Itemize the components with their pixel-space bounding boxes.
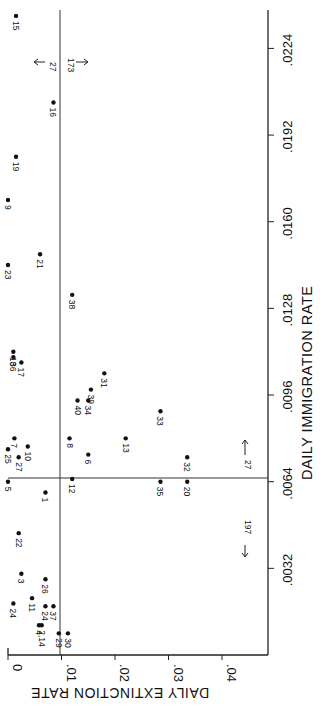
data-point: 7 <box>9 436 19 448</box>
point-marker <box>17 455 21 459</box>
off-scale-label: 27 <box>243 460 253 470</box>
point-label: 40 <box>73 405 83 415</box>
point-label: 8 <box>65 443 75 448</box>
point-label: 3 <box>16 579 26 584</box>
point-label: 27 <box>14 462 24 472</box>
data-point: 19 <box>11 155 21 172</box>
axes <box>8 10 268 655</box>
data-point: 33 <box>155 409 165 426</box>
off-scale-label: 27 <box>48 62 58 72</box>
point-label: 1 <box>40 498 50 503</box>
point-label: 9 <box>3 205 13 210</box>
point-marker <box>11 355 15 359</box>
point-label: 23 <box>3 270 13 280</box>
point-marker <box>11 350 15 354</box>
extinction-axis-label: DAILY EXTINCTION RATE <box>31 685 210 701</box>
data-point: 22 <box>14 531 24 548</box>
point-label: 35 <box>155 487 165 497</box>
data-point: 5 <box>3 479 13 491</box>
extinction-tick-label: .03 <box>171 664 186 682</box>
point-label: 30 <box>63 638 73 648</box>
point-marker <box>185 455 189 459</box>
point-label: 13 <box>121 443 131 453</box>
point-label: 16 <box>48 108 58 118</box>
data-point: 12 <box>67 477 77 494</box>
point-marker <box>6 263 10 267</box>
extinction-ticks: 0.01.02.03.04 <box>8 655 239 682</box>
data-point: 40 <box>73 398 83 415</box>
data-point: 9 <box>3 198 13 210</box>
point-marker <box>185 479 189 483</box>
point-label: 22 <box>14 538 24 548</box>
point-label: 34 <box>83 405 93 415</box>
data-point: 24 <box>8 601 18 618</box>
point-marker <box>102 371 106 375</box>
extinction-tick-label: 0 <box>10 664 25 671</box>
point-label: 7 <box>9 443 19 448</box>
point-marker <box>43 490 47 494</box>
point-label: 38 <box>67 300 77 310</box>
point-label: 5 <box>3 487 13 492</box>
point-marker <box>158 409 162 413</box>
point-marker <box>158 479 162 483</box>
data-point: 31 <box>99 371 109 388</box>
immigration-tick-label: .0032 <box>280 554 295 587</box>
data-point: 27 <box>14 455 24 472</box>
point-marker <box>19 572 23 576</box>
immigration-tick-label: .0128 <box>280 294 295 327</box>
chart-canvas: .0032.0064.0096.0128.0160.0192.0224 0.01… <box>0 0 320 707</box>
off-scale-label: 173 <box>66 58 76 72</box>
point-marker <box>43 577 47 581</box>
point-label: 19 <box>11 162 21 172</box>
data-point: 11 <box>27 596 37 612</box>
extinction-tick-label: .02 <box>117 664 132 682</box>
point-label: 11 <box>27 603 37 612</box>
point-label: 2,14 <box>37 630 47 647</box>
point-marker <box>12 436 16 440</box>
point-marker <box>14 14 18 18</box>
point-label: 15 <box>11 21 21 31</box>
immigration-tick-label: .0096 <box>280 380 295 413</box>
point-marker <box>75 398 79 402</box>
extinction-tick-label: .04 <box>224 664 239 682</box>
point-marker <box>38 252 42 256</box>
point-marker <box>11 601 15 605</box>
point-marker <box>66 631 70 635</box>
point-label: 31 <box>99 378 109 388</box>
data-point: 37 <box>48 604 58 621</box>
data-point: 29 <box>54 631 64 648</box>
point-label: 37 <box>48 611 58 621</box>
data-point: 10 <box>23 444 33 461</box>
immigration-ticks: .0032.0064.0096.0128.0160.0192.0224 <box>268 34 295 586</box>
point-label: 10 <box>23 451 33 461</box>
data-point: 23 <box>3 263 13 280</box>
immigration-axis-label: DAILY IMMIGRATION RATE <box>299 286 315 480</box>
immigration-tick-label: .0192 <box>280 121 295 154</box>
point-marker <box>43 604 47 608</box>
point-marker <box>17 531 21 535</box>
point-marker <box>30 596 34 600</box>
data-point: 38 <box>67 293 77 310</box>
point-marker <box>51 100 55 104</box>
data-point: 8 <box>65 436 75 448</box>
point-marker <box>70 293 74 297</box>
data-point: 35 <box>155 479 165 496</box>
point-marker <box>26 444 30 448</box>
point-label: 26 <box>40 584 50 594</box>
point-label: 29 <box>54 638 64 648</box>
point-label: 20 <box>182 487 192 497</box>
immigration-tick-label: .0224 <box>280 34 295 67</box>
point-marker <box>70 477 74 481</box>
point-marker <box>40 623 44 627</box>
point-label: 21 <box>35 259 45 269</box>
data-point: 1 <box>40 490 50 502</box>
data-point: 30 <box>63 631 73 648</box>
point-marker <box>57 631 61 635</box>
point-marker <box>6 479 10 483</box>
point-label: 17 <box>16 368 26 378</box>
data-point: 32 <box>182 455 192 472</box>
point-marker <box>6 198 10 202</box>
point-marker <box>14 155 18 159</box>
point-marker <box>86 452 90 456</box>
data-point: 26 <box>40 577 50 594</box>
